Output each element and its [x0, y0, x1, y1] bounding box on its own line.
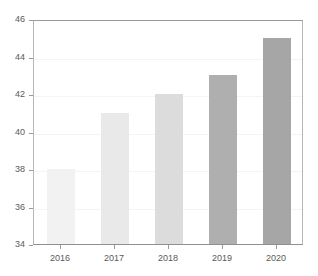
x-axis-tick-label: 2016	[38, 253, 82, 263]
y-axis-tick-mark	[29, 208, 33, 209]
y-axis-tick-mark	[29, 20, 33, 21]
y-axis-tick-mark	[29, 170, 33, 171]
bar-chart-figure: 34363840424446 20162017201820192020	[0, 0, 318, 276]
x-axis-tick-mark	[114, 245, 115, 249]
x-axis-tick-label: 2020	[254, 253, 298, 263]
y-axis-tick-label: 40	[15, 127, 25, 137]
x-axis-tick-label: 2017	[92, 253, 136, 263]
x-axis: 20162017201820192020	[33, 245, 303, 276]
y-axis-tick-label: 46	[15, 14, 25, 24]
y-axis-tick-label: 44	[15, 52, 25, 62]
y-axis-tick-mark	[29, 58, 33, 59]
y-axis-tick-label: 36	[15, 202, 25, 212]
x-axis-tick-mark	[222, 245, 223, 249]
y-axis-tick-label: 34	[15, 239, 25, 249]
y-axis-tick-label: 38	[15, 164, 25, 174]
y-axis: 34363840424446	[0, 0, 33, 246]
plot-area	[33, 20, 303, 245]
x-axis-tick-mark	[168, 245, 169, 249]
x-axis-tick-mark	[60, 245, 61, 249]
y-axis-tick-mark	[29, 133, 33, 134]
y-axis-tick-mark	[29, 95, 33, 96]
x-axis-tick-label: 2019	[200, 253, 244, 263]
x-axis-tick-label: 2018	[146, 253, 190, 263]
bars-layer	[34, 21, 302, 244]
bar-2019[interactable]	[209, 75, 237, 244]
bar-2018[interactable]	[155, 94, 183, 244]
bar-2017[interactable]	[101, 113, 129, 244]
bar-2016[interactable]	[47, 169, 75, 244]
x-axis-tick-mark	[276, 245, 277, 249]
y-axis-tick-label: 42	[15, 89, 25, 99]
clipped-top-text	[0, 0, 318, 7]
bar-2020[interactable]	[263, 38, 291, 244]
